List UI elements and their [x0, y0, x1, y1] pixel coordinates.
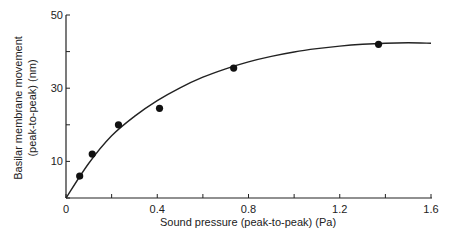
x-tick-label: 1.6	[423, 203, 438, 215]
x-tick-label: 1.2	[332, 203, 347, 215]
data-point	[230, 64, 237, 71]
x-axis: 00.40.81.21.6	[63, 194, 439, 215]
y-tick-label: 50	[51, 9, 63, 21]
plot-area	[66, 41, 431, 198]
chart: 00.40.81.21.6 103050 Sound pressure (pea…	[0, 0, 461, 240]
y-axis: 103050	[51, 9, 70, 198]
data-point	[156, 105, 163, 112]
y-tick-label: 30	[51, 82, 63, 94]
data-point	[76, 172, 83, 179]
y-tick-label: 10	[51, 155, 63, 167]
data-point	[375, 41, 382, 48]
x-tick-label: 0	[63, 203, 69, 215]
y-axis-label-line1: Basilar membrane movement	[12, 36, 24, 180]
y-axis-label-group: Basilar membrane movement (peak-to-peak)…	[12, 36, 38, 180]
x-tick-label: 0.4	[150, 203, 165, 215]
x-axis-label: Sound pressure (peak-to-peak) (Pa)	[160, 216, 336, 228]
x-tick-label: 0.8	[241, 203, 256, 215]
data-point	[115, 121, 122, 128]
fitted-curve	[66, 43, 431, 198]
data-point	[89, 150, 96, 157]
y-axis-label-line2: (peak-to-peak) (nm)	[26, 59, 38, 156]
